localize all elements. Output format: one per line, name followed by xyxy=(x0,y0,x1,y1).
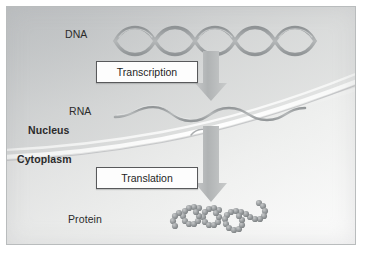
label-nucleus: Nucleus xyxy=(28,124,70,136)
protein-beads xyxy=(170,200,268,233)
label-cytoplasm: Cytoplasm xyxy=(17,153,72,165)
translation-box: Translation xyxy=(96,167,198,189)
illustration-plate: DNA RNA Nucleus Cytoplasm Protein Transc… xyxy=(6,6,356,245)
label-rna: RNA xyxy=(69,105,91,117)
diagram-figure: DNA RNA Nucleus Cytoplasm Protein Transc… xyxy=(0,0,369,259)
label-dna: DNA xyxy=(65,28,87,40)
transcription-box: Transcription xyxy=(96,61,198,83)
label-protein: Protein xyxy=(68,213,102,225)
